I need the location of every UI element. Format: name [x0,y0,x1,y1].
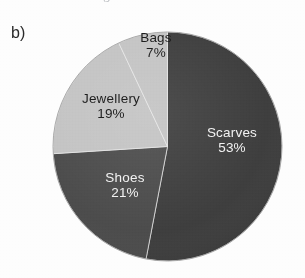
figure-panel: showing how much was b) Bags 7% Jeweller… [0,0,305,278]
pie-chart [52,31,283,262]
pie-outline [53,32,282,261]
pie-chart-svg [52,31,283,262]
cropped-caption-text: showing how much was [62,0,199,3]
panel-label: b) [11,24,26,42]
cropped-caption-strip: showing how much was [0,0,305,14]
